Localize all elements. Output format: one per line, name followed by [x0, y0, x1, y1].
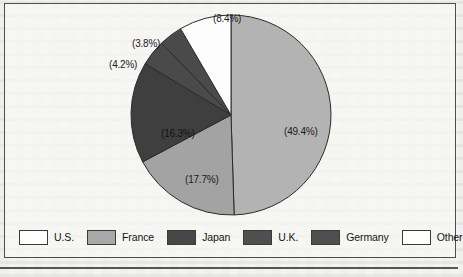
slice-label-other: (8.4%)	[213, 13, 241, 24]
slice-label-japan: (16.3%)	[161, 128, 195, 139]
chart-legend: U.S. France Japan U.K. Germany Other	[5, 216, 457, 258]
slice-label-us: (49.4%)	[284, 126, 318, 137]
legend-item-germany[interactable]: Germany	[311, 230, 388, 245]
legend-swatch-germany	[311, 230, 340, 245]
pie-chart-svg	[5, 4, 457, 216]
slice-label-france: (17.7%)	[185, 174, 219, 185]
chart-frame: (49.4%) (17.7%) (16.3%) (4.2%) (3.8%) (8…	[4, 3, 456, 258]
pie-slice-us[interactable]	[231, 15, 331, 215]
legend-label-germany: Germany	[346, 231, 388, 243]
legend-label-other: Other	[437, 231, 463, 243]
legend-item-uk[interactable]: U.K.	[243, 230, 298, 245]
page-horizontal-rule	[0, 267, 458, 269]
slice-label-uk: (4.2%)	[109, 59, 137, 70]
legend-swatch-japan	[167, 230, 196, 245]
legend-swatch-us	[19, 230, 48, 245]
pie-chart-area: (49.4%) (17.7%) (16.3%) (4.2%) (3.8%) (8…	[5, 4, 457, 216]
pie-slices-group	[131, 15, 331, 215]
legend-swatch-france	[87, 230, 116, 245]
legend-label-japan: Japan	[202, 231, 230, 243]
legend-item-japan[interactable]: Japan	[167, 230, 230, 245]
legend-item-france[interactable]: France	[87, 230, 154, 245]
legend-item-other[interactable]: Other	[402, 230, 463, 245]
legend-label-uk: U.K.	[278, 231, 298, 243]
legend-swatch-uk	[243, 230, 272, 245]
legend-label-us: U.S.	[54, 231, 74, 243]
legend-label-france: France	[122, 231, 154, 243]
slice-label-germany: (3.8%)	[132, 38, 160, 49]
legend-item-us[interactable]: U.S.	[19, 230, 74, 245]
legend-swatch-other	[402, 230, 431, 245]
